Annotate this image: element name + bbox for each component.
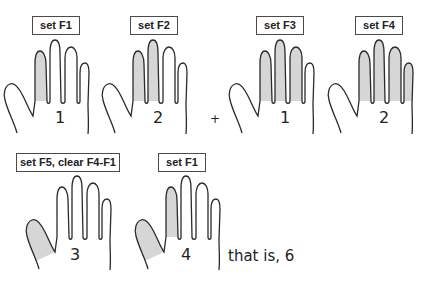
count-value: 2 <box>379 108 389 127</box>
hand-diagram <box>324 0 424 140</box>
result-text: that is, 6 <box>228 247 294 265</box>
hand-icon <box>98 0 198 140</box>
count-value: 4 <box>181 245 191 264</box>
hand-icon <box>324 0 424 140</box>
count-value: 1 <box>280 108 290 127</box>
count-value: 2 <box>153 108 163 127</box>
hand-diagram <box>0 0 100 140</box>
count-value: 1 <box>55 108 65 127</box>
hand-diagram <box>225 0 325 140</box>
count-value: 3 <box>70 245 80 264</box>
plus-operator: + <box>210 112 220 126</box>
hand-icon <box>225 0 325 140</box>
hand-icon <box>0 0 100 140</box>
hand-diagram <box>98 0 198 140</box>
